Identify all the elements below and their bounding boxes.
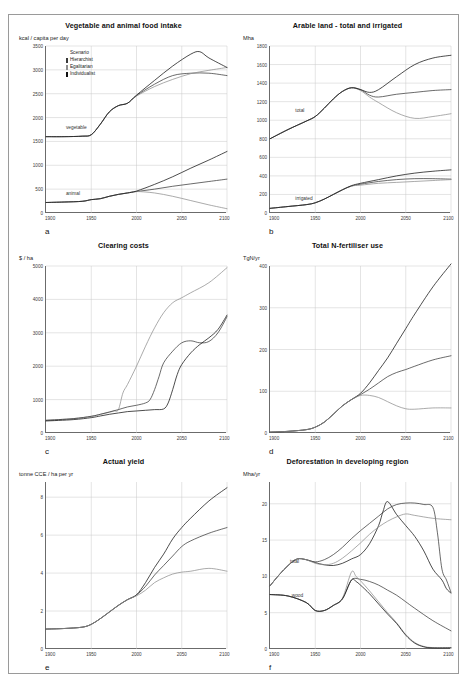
y-tick-label: 1200 xyxy=(237,99,267,104)
series-annotation: total xyxy=(290,559,299,564)
x-tick-label: 2100 xyxy=(443,436,453,441)
x-tick-label: 1950 xyxy=(310,216,320,221)
x-tick-label: 1900 xyxy=(269,216,279,221)
legend-swatch-icon xyxy=(66,65,68,70)
y-tick-label: 5000 xyxy=(13,264,43,269)
y-tick-label: 3000 xyxy=(13,330,43,335)
panel-letter-e: e xyxy=(45,663,49,672)
y-tick-label: 2500 xyxy=(13,91,43,96)
plot-area-e: 0246819001950200020502100 xyxy=(45,482,226,649)
panel-letter-d: d xyxy=(269,447,273,456)
chart-panel-c: Clearing costs$ / ha01000200030004000500… xyxy=(11,241,236,459)
y-tick-label: 1400 xyxy=(237,81,267,86)
y-tick-label: 1000 xyxy=(237,118,267,123)
panel-title-e: Actual yield xyxy=(11,457,236,466)
x-tick-label: 2100 xyxy=(443,216,453,221)
y-tick-label: 200 xyxy=(237,192,267,197)
y-tick-label: 2000 xyxy=(13,115,43,120)
legend-entry-label: Egalitarian xyxy=(70,64,93,71)
panel-title-d: Total N-fertiliser use xyxy=(235,241,460,250)
x-tick-label: 1950 xyxy=(86,216,96,221)
plot-canvas-f xyxy=(270,482,451,649)
plot-canvas-b xyxy=(270,46,451,213)
y-tick-label: 400 xyxy=(237,173,267,178)
x-tick-label: 2000 xyxy=(131,216,141,221)
x-tick-label: 2100 xyxy=(219,436,229,441)
y-tick-label: 0 xyxy=(237,647,267,652)
x-tick-label: 1950 xyxy=(310,652,320,657)
plot-canvas-e xyxy=(46,482,227,649)
panel-title-a: Vegetable and animal food intake xyxy=(11,21,236,30)
y-tick-label: 800 xyxy=(237,136,267,141)
legend-swatch-icon xyxy=(66,58,68,63)
series-annotation: total xyxy=(295,108,304,113)
x-tick-label: 2050 xyxy=(177,436,187,441)
series-annotation: vegetable xyxy=(66,125,87,130)
y-tick-label: 3500 xyxy=(13,44,43,49)
y-tick-label: 15 xyxy=(237,538,267,543)
legend-title: Scenario xyxy=(70,50,95,57)
y-tick-label: 100 xyxy=(237,389,267,394)
panel-title-b: Arable land - total and irrigated xyxy=(235,21,460,30)
y-axis-label-d: TgN/yr xyxy=(243,255,260,261)
scenario-legend: ScenarioHierarchistEgalitarianIndividual… xyxy=(66,50,95,78)
y-tick-label: 8 xyxy=(13,495,43,500)
x-tick-label: 2050 xyxy=(401,436,411,441)
legend-entry: Egalitarian xyxy=(66,64,95,71)
chart-panel-f: Deforestation in developing regionMha/yr… xyxy=(235,457,460,675)
y-tick-label: 3000 xyxy=(13,67,43,72)
x-tick-label: 2050 xyxy=(401,216,411,221)
panel-title-c: Clearing costs xyxy=(11,241,236,250)
y-axis-label-f: Mha/yr xyxy=(243,471,260,477)
y-tick-label: 1000 xyxy=(13,163,43,168)
y-axis-label-a: kcal / capita per day xyxy=(19,35,69,41)
chart-panel-d: Total N-fertiliser useTgN/yr010020030040… xyxy=(235,241,460,459)
y-tick-label: 2000 xyxy=(13,364,43,369)
x-tick-label: 2000 xyxy=(355,652,365,657)
x-tick-label: 2000 xyxy=(131,652,141,657)
y-tick-label: 4 xyxy=(13,571,43,576)
y-tick-label: 1000 xyxy=(13,397,43,402)
y-tick-label: 10 xyxy=(237,574,267,579)
y-tick-label: 4000 xyxy=(13,297,43,302)
y-tick-label: 20 xyxy=(237,501,267,506)
x-tick-label: 1900 xyxy=(269,652,279,657)
x-tick-label: 2000 xyxy=(131,436,141,441)
series-annotation: wood xyxy=(292,593,303,598)
legend-entry: Individualist xyxy=(66,71,95,78)
y-axis-label-c: $ / ha xyxy=(19,255,33,261)
plot-area-c: 0100020003000400050001900195020002050210… xyxy=(45,266,226,433)
x-tick-label: 2000 xyxy=(355,436,365,441)
x-tick-label: 2100 xyxy=(219,216,229,221)
x-tick-label: 1900 xyxy=(269,436,279,441)
chart-panel-a: Vegetable and animal food intakekcal / c… xyxy=(11,21,236,239)
x-tick-label: 1950 xyxy=(86,436,96,441)
x-tick-label: 2000 xyxy=(355,216,365,221)
y-tick-label: 0 xyxy=(13,211,43,216)
x-tick-label: 2050 xyxy=(401,652,411,657)
x-tick-label: 1900 xyxy=(45,652,55,657)
legend-entry-label: Individualist xyxy=(70,71,95,78)
figure-frame: Vegetable and animal food intakekcal / c… xyxy=(8,14,459,674)
y-tick-label: 300 xyxy=(237,305,267,310)
y-tick-label: 6 xyxy=(13,533,43,538)
plot-area-a: 0500100015002000250030003500190019502000… xyxy=(45,46,226,213)
plot-area-f: 0510152019001950200020502100totalwood xyxy=(269,482,450,649)
y-axis-label-e: tonne CCE / ha per yr xyxy=(19,471,73,477)
y-tick-label: 5 xyxy=(237,610,267,615)
y-tick-label: 600 xyxy=(237,155,267,160)
series-annotation: irrigated xyxy=(295,196,312,201)
x-tick-label: 1900 xyxy=(45,436,55,441)
panel-letter-f: f xyxy=(269,663,271,672)
y-tick-label: 400 xyxy=(237,264,267,269)
y-tick-label: 1500 xyxy=(13,139,43,144)
legend-swatch-icon xyxy=(66,72,68,77)
y-tick-label: 200 xyxy=(237,347,267,352)
y-tick-label: 0 xyxy=(237,211,267,216)
y-tick-label: 1800 xyxy=(237,44,267,49)
plot-area-b: 0200400600800100012001400160018001900195… xyxy=(269,46,450,213)
panel-letter-b: b xyxy=(269,227,273,236)
y-tick-label: 0 xyxy=(237,431,267,436)
y-tick-label: 500 xyxy=(13,187,43,192)
y-tick-label: 1600 xyxy=(237,62,267,67)
